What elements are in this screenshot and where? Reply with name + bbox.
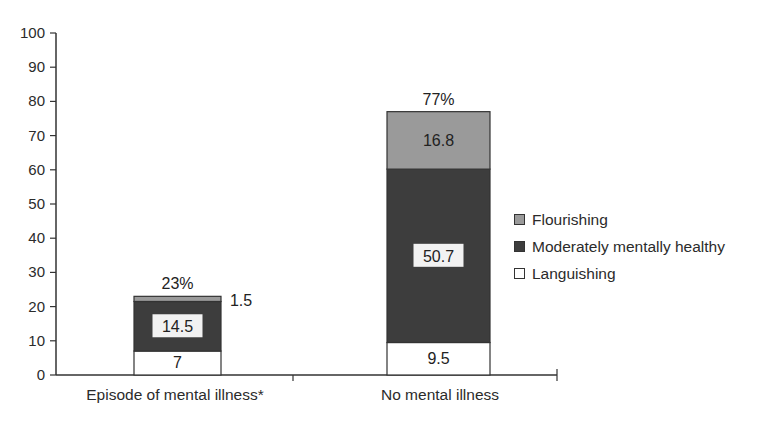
svg-text:7: 7 [173, 354, 182, 371]
legend-label: Languishing [532, 265, 616, 283]
svg-text:50.7: 50.7 [423, 248, 454, 265]
label-total: 23% [161, 275, 193, 292]
label-languishing: 7 [173, 354, 182, 371]
x-label-episode: Episode of mental illness* [60, 386, 290, 404]
svg-text:14.5: 14.5 [162, 318, 193, 335]
y-tick-label: 10 [5, 333, 45, 349]
label-total: 77% [422, 91, 454, 108]
legend-item-languishing: Languishing [514, 260, 725, 287]
svg-text:9.5: 9.5 [427, 350, 449, 367]
bars: 714.51.523%9.550.716.877% [134, 91, 490, 375]
y-tick-label: 70 [5, 128, 45, 144]
y-tick-label: 0 [5, 367, 45, 383]
label-moderately: 50.7 [414, 244, 464, 267]
label-flourishing: 1.5 [230, 292, 252, 309]
legend-item-flourishing: Flourishing [514, 206, 725, 233]
y-tick-label: 50 [5, 196, 45, 212]
svg-text:1.5: 1.5 [230, 292, 252, 309]
swatch-languishing [514, 268, 525, 279]
label-flourishing: 16.8 [423, 132, 454, 149]
label-moderately: 14.5 [153, 314, 203, 337]
y-ticks [50, 33, 56, 375]
legend-item-moderately: Moderately mentally healthy [514, 233, 725, 260]
y-tick-label: 20 [5, 299, 45, 315]
y-tick-label: 100 [5, 25, 45, 41]
y-tick-label: 80 [5, 93, 45, 109]
y-tick-label: 60 [5, 162, 45, 178]
stacked-bar-chart: 714.51.523%9.550.716.877% 01020304050607… [0, 0, 771, 425]
x-label-no-illness: No mental illness [330, 386, 550, 404]
legend-label: Flourishing [532, 211, 608, 229]
bar-segment-flourishing [134, 296, 221, 301]
y-tick-label: 30 [5, 264, 45, 280]
legend: Flourishing Moderately mentally healthy … [514, 206, 725, 287]
swatch-flourishing [514, 214, 525, 225]
svg-text:16.8: 16.8 [423, 132, 454, 149]
y-tick-label: 90 [5, 59, 45, 75]
swatch-moderately [514, 241, 525, 252]
legend-label: Moderately mentally healthy [532, 238, 725, 256]
svg-text:23%: 23% [161, 275, 193, 292]
y-tick-label: 40 [5, 230, 45, 246]
svg-text:77%: 77% [422, 91, 454, 108]
label-languishing: 9.5 [427, 350, 449, 367]
